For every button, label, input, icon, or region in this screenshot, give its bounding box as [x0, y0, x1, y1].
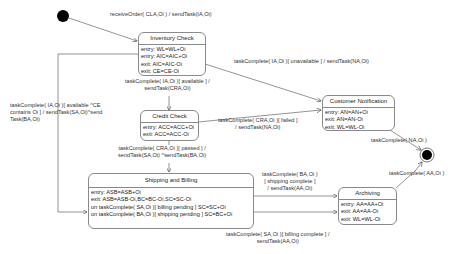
state-action: on taskComplete( BA,Oi )[ shipping pendi… — [91, 211, 251, 218]
state-action: exit: AIC=AIC-Oi — [141, 61, 203, 68]
label-line: Task(BA,Oi) — [10, 116, 102, 123]
state-customer-notification: Customer Notification entry: AN=AN+Oi ex… — [322, 95, 395, 131]
label-line: / sendTask(AA,Oi) — [262, 185, 318, 192]
transition-label-notify-complete: taskComplete( NA,Oi ) — [371, 137, 427, 144]
state-shipping-and-billing: Shipping and Billing entry: ASB=ASB+Oi e… — [88, 173, 254, 229]
label-line: taskComplete( IA,Oi )[ available ^CE — [10, 102, 102, 109]
label-line: taskComplete( NA,Oi ) — [371, 137, 427, 143]
state-action: entry: AIC=AIC+Oi — [141, 53, 203, 60]
label-line: taskComplete( AA,Oi ) — [389, 170, 444, 176]
label-line: taskComplete( IA,Oi )[ unavailable ] / s… — [234, 58, 369, 64]
final-state — [422, 150, 432, 160]
transition-label-shipping-complete: taskComplete( BA,Oi ) [ shipping complet… — [262, 171, 318, 193]
state-inventory-check: Inventory Check entry: WL=WL+Oi entry: A… — [138, 32, 206, 76]
state-action: exit: ASB=ASB-Oi,BC=BC-Oi,SC=SC-Oi — [91, 196, 251, 203]
state-action: exit: AA=AA-Oi — [341, 208, 394, 215]
state-action: entry: AA=AA+Oi — [341, 201, 394, 208]
state-title: Credit Check — [141, 111, 198, 123]
state-action: entry: AN=AN+Oi — [325, 109, 392, 116]
label-line: taskComplete( CRA,Oi )[ passed ] / — [118, 145, 206, 152]
state-archiving: Archiving entry: AA=AA+Oi exit: AA=AA-Oi… — [338, 187, 397, 225]
state-title: Inventory Check — [139, 33, 205, 45]
transition-label-unavailable: taskComplete( IA,Oi )[ unavailable ] / s… — [234, 58, 369, 65]
label-line: taskComplete( SA,Oi )[ billing complete … — [226, 231, 330, 238]
label-line: / sendTask(NA,Oi) — [218, 124, 298, 131]
label-line: sendTask(SA,Oi) ^sendTask(BA,Oi) — [118, 152, 206, 159]
label-line: contains Oi ] / sendTask(SA,Oi)^send — [10, 109, 102, 116]
label-line: [ shipping complete ] — [262, 178, 318, 185]
label-line: taskComplete( BA,Oi ) — [262, 171, 318, 178]
transition-label-billing-complete: taskComplete( SA,Oi )[ billing complete … — [226, 231, 330, 245]
state-action: exit: CE=CE-Oi — [141, 68, 203, 75]
state-action: on taskComplete( SA,Oi )[ billing pendin… — [91, 204, 251, 211]
state-credit-check: Credit Check entry: ACC=ACC+Oi exit: ACC… — [140, 110, 199, 141]
label-line: taskComplete( IA,Oi )[ available ] / — [125, 78, 210, 85]
state-title: Archiving — [339, 188, 396, 200]
label-line: sendTask(CRA,Oi) — [125, 85, 210, 92]
state-action: exit: WL=WL-Oi — [325, 124, 392, 131]
label-line: receiveOrder( CLA,Oi ) / sendTask(IA,Oi) — [110, 11, 212, 17]
transition-label-failed: taskComplete( CRA,Oi )[ failed ] / sendT… — [218, 117, 298, 131]
state-title: Customer Notification — [323, 96, 394, 108]
label-line: sendTask(AA,Oi) — [226, 238, 330, 245]
initial-state — [57, 10, 69, 22]
transition-label-available-ce: taskComplete( IA,Oi )[ available ^CE con… — [10, 102, 102, 124]
state-action: exit: WL=WL-Oi — [341, 216, 394, 223]
transition-label-archive-complete: taskComplete( AA,Oi ) — [389, 170, 444, 177]
transition-label-available: taskComplete( IA,Oi )[ available ] / sen… — [125, 78, 210, 92]
state-action: entry: ASB=ASB+Oi — [91, 189, 251, 196]
transition-label-passed: taskComplete( CRA,Oi )[ passed ] / sendT… — [118, 145, 206, 159]
label-line: taskComplete( CRA,Oi )[ failed ] — [218, 117, 298, 124]
state-title: Shipping and Billing — [89, 174, 253, 188]
state-action: exit: AN=AN-Oi — [325, 116, 392, 123]
transition-label-receive-order: receiveOrder( CLA,Oi ) / sendTask(IA,Oi) — [110, 11, 212, 18]
state-action: entry: WL=WL+Oi — [141, 46, 203, 53]
state-action: entry: ACC=ACC+Oi — [143, 124, 196, 131]
state-action: exit: ACC=ACC-Oi — [143, 131, 196, 138]
